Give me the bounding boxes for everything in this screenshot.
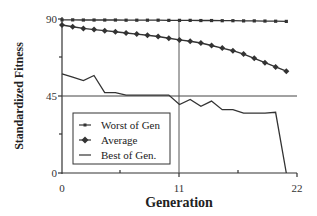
series-worst-of-gen — [60, 18, 288, 23]
series-average — [59, 22, 289, 74]
y-axis-label: Standardized Fitness — [12, 42, 26, 150]
x-tick-22: 22 — [292, 182, 303, 194]
square-marker-icon — [84, 124, 87, 127]
y-tick-45: 45 — [46, 90, 58, 102]
fitness-chart: Standardized Fitness 90 45 0 0 11 22 Gen… — [0, 0, 317, 216]
legend-label-average: Average — [101, 134, 138, 146]
legend-label-best: Best of Gen. — [101, 149, 157, 161]
x-tick-11: 11 — [174, 182, 185, 194]
legend-label-worst: Worst of Gen — [101, 119, 160, 131]
y-tick-90: 90 — [46, 13, 58, 25]
x-axis-label: Generation — [145, 195, 213, 210]
x-tick-0: 0 — [59, 182, 65, 194]
y-tick-0: 0 — [52, 167, 58, 179]
legend: Worst of Gen Average Best of Gen. — [73, 113, 170, 164]
